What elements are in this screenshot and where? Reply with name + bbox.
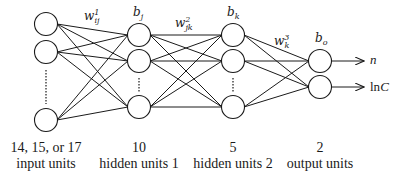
layer-name: hidden units 2 bbox=[193, 156, 272, 172]
hidden1-node bbox=[128, 24, 151, 47]
layer-name: input units bbox=[10, 156, 81, 172]
hidden2-node bbox=[222, 50, 245, 73]
layer-name: output units bbox=[287, 156, 354, 172]
hidden1-node bbox=[128, 50, 151, 73]
layer-label-input: 14, 15, or 17 input units bbox=[10, 140, 81, 172]
layer-count: 14, 15, or 17 bbox=[10, 140, 81, 156]
output-layer-nodes bbox=[309, 50, 332, 99]
output-node bbox=[309, 50, 332, 73]
output-arrows bbox=[331, 61, 364, 87]
hidden2-layer-nodes bbox=[222, 24, 245, 119]
output-node bbox=[309, 76, 332, 99]
weight-label-w1: w1ij bbox=[84, 6, 99, 28]
layer-name: hidden units 1 bbox=[99, 156, 178, 172]
hidden2-node bbox=[222, 24, 245, 47]
weight-label-w3: w3k bbox=[274, 31, 289, 53]
bias-label-hidden1: bj bbox=[133, 5, 143, 24]
hidden2-node bbox=[222, 96, 245, 119]
bias-label-output: bo bbox=[315, 31, 328, 50]
edges-input-hidden1 bbox=[57, 24, 128, 120]
bias-label-hidden2: bk bbox=[227, 5, 240, 24]
neural-network-diagram: w1ij w2jk w3k bj bk bo n lnC 14, 15, or … bbox=[0, 0, 403, 179]
edges-hidden1-hidden2 bbox=[150, 35, 222, 107]
input-node bbox=[35, 109, 58, 132]
layer-count: 2 bbox=[287, 140, 354, 156]
layer-label-hidden1: 10 hidden units 1 bbox=[99, 140, 178, 172]
input-node bbox=[35, 41, 58, 64]
layer-count: 5 bbox=[193, 140, 272, 156]
layer-count: 10 bbox=[99, 140, 178, 156]
output-label-lnC: lnC bbox=[370, 79, 389, 95]
output-label-n: n bbox=[370, 52, 377, 68]
input-layer-nodes bbox=[35, 13, 58, 132]
layer-label-hidden2: 5 hidden units 2 bbox=[193, 140, 272, 172]
hidden1-node bbox=[128, 96, 151, 119]
layer-label-output: 2 output units bbox=[287, 140, 354, 172]
input-node bbox=[35, 13, 58, 36]
weight-label-w2: w2jk bbox=[175, 13, 193, 35]
hidden1-layer-nodes bbox=[128, 24, 151, 119]
